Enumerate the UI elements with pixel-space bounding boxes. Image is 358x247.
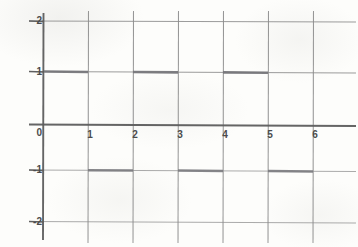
square-wave-plot xyxy=(0,0,358,247)
gridline-y-2 xyxy=(29,21,356,22)
chart-page: 2 1 0 -1 -2 1 2 3 4 5 6 xyxy=(0,0,358,247)
gridline-x-6 xyxy=(313,11,314,243)
x-tick-label-4: 4 xyxy=(222,130,228,140)
y-axis-line xyxy=(43,13,44,240)
vertical-gridlines xyxy=(88,11,314,243)
x-tick-label-1: 1 xyxy=(87,130,93,140)
axis-lines xyxy=(29,13,356,240)
x-tick-label-6: 6 xyxy=(312,130,318,140)
gridline-x-4 xyxy=(223,11,224,243)
y-tick-label-1: 1 xyxy=(36,67,42,77)
gridline-x-5 xyxy=(268,11,269,243)
gridline-y-neg2 xyxy=(29,222,356,224)
x-tick-label-5: 5 xyxy=(267,130,273,140)
y-tick-label-0: 0 xyxy=(36,128,42,138)
x-tick-label-3: 3 xyxy=(177,130,183,140)
y-tick-marks xyxy=(29,21,44,222)
x-tick-label-2: 2 xyxy=(132,130,138,140)
gridline-x-2 xyxy=(133,11,134,243)
y-tick-label-2: 2 xyxy=(36,16,42,26)
y-tick-label-neg2: -2 xyxy=(33,217,42,227)
y-tick-label-neg1: -1 xyxy=(33,165,42,175)
wave-segment-high-0-1 xyxy=(44,72,88,73)
gridline-x-1 xyxy=(88,11,89,243)
gridline-x-3 xyxy=(178,11,179,243)
horizontal-gridlines xyxy=(29,21,356,223)
x-axis-line xyxy=(29,125,356,127)
